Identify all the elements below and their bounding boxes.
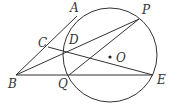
label-o: O: [116, 51, 126, 65]
center-point-o: [108, 55, 111, 58]
segments: [16, 16, 153, 75]
label-b: B: [7, 77, 17, 91]
label-d: D: [68, 33, 79, 47]
label-c: C: [38, 36, 47, 50]
segment-qp: [69, 19, 139, 75]
geometry-diagram: A P C D O B Q E: [0, 0, 175, 108]
label-q: Q: [58, 77, 68, 91]
label-e: E: [156, 73, 166, 87]
label-p: P: [141, 3, 151, 17]
label-a: A: [69, 1, 79, 15]
